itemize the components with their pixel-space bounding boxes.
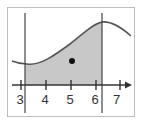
tick-label-7: 7 [113, 92, 120, 107]
tick-label-3: 3 [17, 92, 24, 107]
tick-label-5: 5 [67, 92, 74, 107]
tick-label-6: 6 [92, 92, 99, 107]
tick-label-4: 4 [42, 92, 49, 107]
sample-point [69, 58, 75, 64]
integral-diagram: 3 4 5 6 7 [0, 0, 141, 120]
